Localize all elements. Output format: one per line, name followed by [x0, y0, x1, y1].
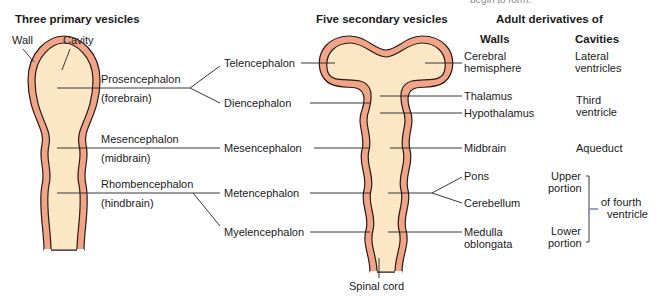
- label-myelencephalon: Myelencephalon: [224, 226, 304, 239]
- label-ventricle-third: ventricle: [576, 106, 617, 119]
- label-cerebellum: Cerebellum: [464, 197, 520, 210]
- label-thalamus: Thalamus: [464, 90, 512, 103]
- label-aqueduct: Aqueduct: [576, 142, 622, 155]
- label-hindbrain: (hindbrain): [101, 197, 154, 210]
- heading-walls: Walls: [480, 33, 510, 45]
- heading-primary-vesicles: Three primary vesicles: [15, 13, 140, 25]
- label-hemisphere: hemisphere: [464, 62, 521, 75]
- label-mesencephalon-primary: Mesencephalon: [101, 133, 179, 146]
- label-rhombencephalon: Rhombencephalon: [101, 178, 193, 191]
- heading-adult-derivatives: Adult derivatives of: [496, 13, 603, 25]
- heading-secondary-vesicles: Five secondary vesicles: [316, 13, 448, 25]
- label-midbrain-wall: Midbrain: [464, 142, 506, 155]
- label-pons: Pons: [464, 170, 489, 183]
- label-upper-portion: portion: [548, 182, 582, 195]
- label-prosencephalon: Prosencephalon: [101, 73, 181, 86]
- label-midbrain-common: (midbrain): [101, 152, 151, 165]
- label-forebrain: (forebrain): [101, 92, 152, 105]
- label-oblongata: oblongata: [464, 238, 512, 251]
- primary-vesicle-tube: [28, 36, 100, 250]
- brain-vesicle-diagram: [0, 0, 661, 296]
- label-mesencephalon-secondary: Mesencephalon: [224, 142, 302, 155]
- heading-cavities: Cavities: [575, 33, 619, 45]
- label-lower-portion: portion: [548, 237, 582, 250]
- label-wall: Wall: [12, 34, 33, 47]
- label-diencephalon: Diencephalon: [224, 97, 291, 110]
- label-telencephalon: Telencephalon: [224, 57, 295, 70]
- label-metencephalon: Metencephalon: [224, 187, 299, 200]
- label-hypothalamus: Hypothalamus: [464, 107, 534, 120]
- label-fourth-ventricle: ventricle: [607, 208, 648, 221]
- label-ventricles: ventricles: [575, 62, 621, 75]
- label-spinal-cord: Spinal cord: [349, 280, 404, 293]
- secondary-vesicle-tube: [319, 36, 452, 272]
- label-cavity: Cavity: [63, 34, 94, 47]
